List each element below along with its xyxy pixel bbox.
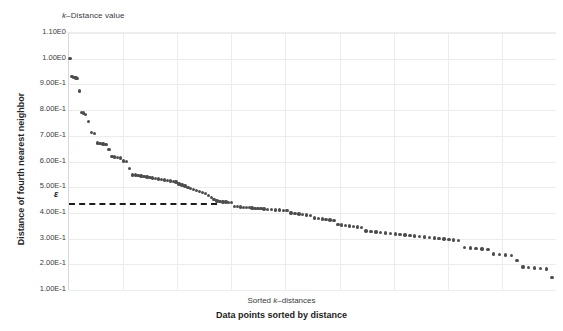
gridline-horizontal bbox=[69, 84, 556, 85]
y-axis-tick-label: 1.10E0 bbox=[20, 27, 66, 36]
data-point bbox=[389, 232, 392, 235]
data-point bbox=[374, 230, 377, 233]
data-point bbox=[305, 213, 308, 216]
data-point bbox=[550, 276, 553, 279]
data-point bbox=[369, 230, 372, 233]
data-point bbox=[107, 148, 110, 151]
data-point bbox=[76, 77, 79, 80]
chart-title-rest: –Distance value bbox=[66, 11, 124, 20]
data-point bbox=[545, 267, 548, 270]
data-point bbox=[398, 233, 401, 236]
data-point bbox=[313, 216, 316, 219]
data-point bbox=[270, 208, 273, 211]
data-point bbox=[498, 253, 501, 256]
data-point bbox=[340, 223, 343, 226]
gridline-vertical bbox=[448, 33, 449, 290]
gridline-horizontal bbox=[69, 239, 556, 240]
data-point bbox=[348, 224, 351, 227]
data-point bbox=[504, 253, 507, 256]
data-point bbox=[474, 247, 477, 250]
data-point bbox=[317, 217, 320, 220]
x-axis-subtitle: Sorted k–distances bbox=[0, 296, 563, 305]
data-point bbox=[285, 209, 288, 212]
data-point bbox=[463, 246, 466, 249]
y-axis-tick-labels: 1.10E01.00E09.00E-18.00E-17.00E-16.00E-1… bbox=[14, 0, 66, 331]
data-point bbox=[492, 252, 495, 255]
plot-area bbox=[68, 32, 556, 290]
y-axis-tick-label: 6.00E-1 bbox=[20, 156, 66, 165]
data-point bbox=[510, 254, 513, 257]
gridline-horizontal bbox=[69, 162, 556, 163]
data-point bbox=[356, 225, 359, 228]
gridline-horizontal bbox=[69, 33, 556, 34]
data-point bbox=[274, 208, 277, 211]
epsilon-label: ε bbox=[54, 189, 58, 199]
data-point bbox=[480, 247, 483, 250]
data-point bbox=[521, 265, 524, 268]
gridline-horizontal bbox=[69, 290, 556, 291]
data-point bbox=[423, 235, 426, 238]
gridline-horizontal bbox=[69, 264, 556, 265]
gridline-vertical bbox=[231, 33, 232, 290]
gridline-vertical bbox=[394, 33, 395, 290]
data-point bbox=[408, 234, 411, 237]
x-axis-subtitle-post: –distances bbox=[277, 296, 315, 305]
data-point bbox=[301, 213, 304, 216]
x-axis-title: Data points sorted by distance bbox=[0, 310, 563, 320]
gridline-horizontal bbox=[69, 213, 556, 214]
data-point bbox=[394, 232, 397, 235]
data-point bbox=[278, 208, 281, 211]
gridline-vertical bbox=[285, 33, 286, 290]
data-point bbox=[433, 236, 436, 239]
data-point bbox=[336, 223, 339, 226]
data-point bbox=[352, 225, 355, 228]
data-point bbox=[128, 167, 131, 170]
data-point bbox=[262, 207, 265, 210]
x-axis-subtitle-pre: Sorted bbox=[247, 296, 273, 305]
gridline-horizontal bbox=[69, 59, 556, 60]
gridline-horizontal bbox=[69, 110, 556, 111]
data-point bbox=[533, 266, 536, 269]
data-point bbox=[125, 160, 128, 163]
data-point bbox=[282, 209, 285, 212]
data-point bbox=[68, 57, 71, 60]
data-point bbox=[486, 248, 489, 251]
data-point bbox=[437, 237, 440, 240]
data-point bbox=[364, 229, 367, 232]
data-point bbox=[452, 238, 455, 241]
gridline-horizontal bbox=[69, 187, 556, 188]
y-axis-tick-label: 3.00E-1 bbox=[20, 233, 66, 242]
chart-title: k–Distance value bbox=[62, 11, 125, 20]
y-axis-tick-label: 1.00E0 bbox=[20, 53, 66, 62]
data-point bbox=[527, 266, 530, 269]
data-point bbox=[104, 143, 107, 146]
chart-figure: k–Distance value Distance of fourth near… bbox=[0, 0, 563, 331]
gridline-vertical bbox=[177, 33, 178, 290]
data-point bbox=[289, 211, 292, 214]
data-point bbox=[309, 214, 312, 217]
data-point bbox=[413, 234, 416, 237]
data-point bbox=[266, 208, 269, 211]
data-point bbox=[447, 238, 450, 241]
data-point bbox=[328, 218, 331, 221]
y-axis-tick-label: 5.00E-1 bbox=[20, 181, 66, 190]
data-point bbox=[87, 120, 90, 123]
data-point bbox=[78, 89, 81, 92]
y-axis-tick-label: 8.00E-1 bbox=[20, 104, 66, 113]
data-point bbox=[457, 239, 460, 242]
y-axis-tick-label: 2.00E-1 bbox=[20, 258, 66, 267]
data-point bbox=[384, 231, 387, 234]
data-point bbox=[230, 201, 233, 204]
data-point bbox=[469, 246, 472, 249]
epsilon-threshold-line bbox=[69, 203, 217, 205]
gridline-vertical bbox=[502, 33, 503, 290]
data-point bbox=[442, 237, 445, 240]
data-point bbox=[321, 217, 324, 220]
data-point bbox=[360, 226, 363, 229]
data-point bbox=[297, 212, 300, 215]
y-axis-tick-label: 1.00E-1 bbox=[20, 284, 66, 293]
y-axis-tick-label: 4.00E-1 bbox=[20, 207, 66, 216]
data-point bbox=[332, 219, 335, 222]
data-point bbox=[84, 113, 87, 116]
data-point bbox=[515, 259, 518, 262]
